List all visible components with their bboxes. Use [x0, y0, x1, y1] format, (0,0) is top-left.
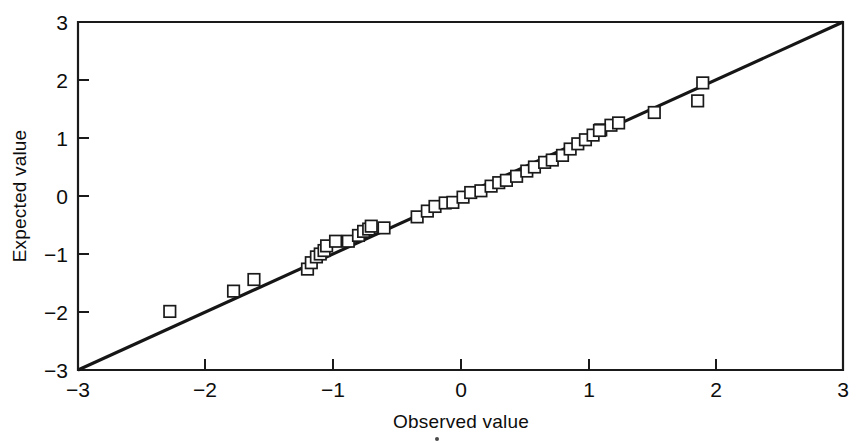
x-tick-label-neg1: −1 — [321, 378, 345, 401]
x-tick-label-1: 1 — [583, 378, 595, 401]
data-point — [649, 107, 661, 119]
print-artifact-speck — [435, 437, 439, 441]
data-point — [164, 306, 176, 318]
y-tick-label-1: 1 — [56, 127, 68, 150]
data-point — [594, 125, 606, 136]
y-tick-label-neg1: −1 — [44, 243, 68, 266]
figure-background — [0, 0, 866, 443]
y-tick-label-0: 0 — [56, 185, 68, 208]
data-point — [692, 95, 704, 107]
x-tick-label-neg2: −2 — [193, 378, 217, 401]
y-tick-label-neg2: −2 — [44, 301, 68, 324]
data-point — [613, 117, 625, 129]
x-tick-label-0: 0 — [455, 378, 467, 401]
x-tick-label-neg3: −3 — [66, 378, 90, 401]
y-tick-label-3: 3 — [56, 11, 68, 34]
x-tick-label-3: 3 — [837, 378, 849, 401]
y-tick-label-2: 2 — [56, 69, 68, 92]
data-point — [228, 285, 240, 297]
qq-plot-figure: 3 2 1 0 −1 −2 −3 −3 −2 −1 0 1 2 3 Observ… — [0, 0, 866, 443]
data-point — [248, 274, 260, 286]
x-tick-label-2: 2 — [710, 378, 722, 401]
data-point — [366, 220, 378, 232]
data-point — [330, 235, 342, 247]
y-tick-label-neg3: −3 — [44, 359, 68, 382]
x-axis-title: Observed value — [393, 411, 529, 432]
y-axis-title: Expected value — [9, 130, 30, 263]
data-point — [378, 222, 390, 234]
data-point — [697, 77, 709, 89]
